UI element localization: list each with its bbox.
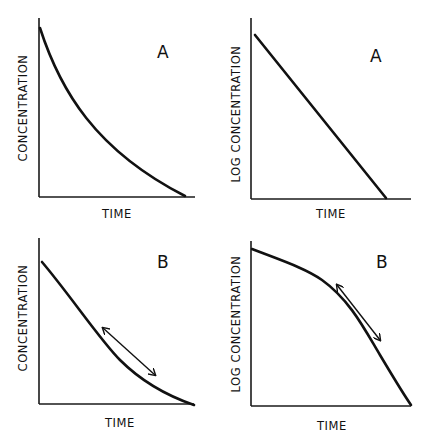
panel-bottom-right: B TIME LOG CONCENTRATION: [229, 241, 411, 433]
panel-letter: A: [157, 42, 169, 62]
panel-top-right: A TIME LOG CONCENTRATION: [229, 18, 411, 221]
x-axis-label: TIME: [101, 207, 132, 221]
panel-letter: B: [157, 252, 169, 272]
panel-bottom-left: B TIME CONCENTRATION: [16, 238, 194, 430]
linear-decline-line: [255, 35, 386, 198]
x-axis-label: TIME: [316, 419, 347, 433]
y-axis-label: CONCENTRATION: [16, 265, 30, 372]
figure-four-panel-plots: A TIME CONCENTRATION A TIME LOG CONCENTR…: [0, 0, 429, 443]
y-axis-label: LOG CONCENTRATION: [229, 46, 243, 183]
double-headed-arrow: [337, 285, 380, 340]
log-concentration-curve: [252, 249, 411, 405]
panel-letter: A: [370, 46, 382, 66]
x-axis-label: TIME: [315, 207, 346, 221]
panel-letter: B: [376, 252, 388, 272]
panel-top-left: A TIME CONCENTRATION: [16, 18, 195, 221]
x-axis-label: TIME: [104, 416, 135, 430]
concentration-curve: [42, 262, 194, 405]
y-axis-label: LOG CONCENTRATION: [229, 256, 243, 393]
y-axis-label: CONCENTRATION: [16, 55, 30, 162]
